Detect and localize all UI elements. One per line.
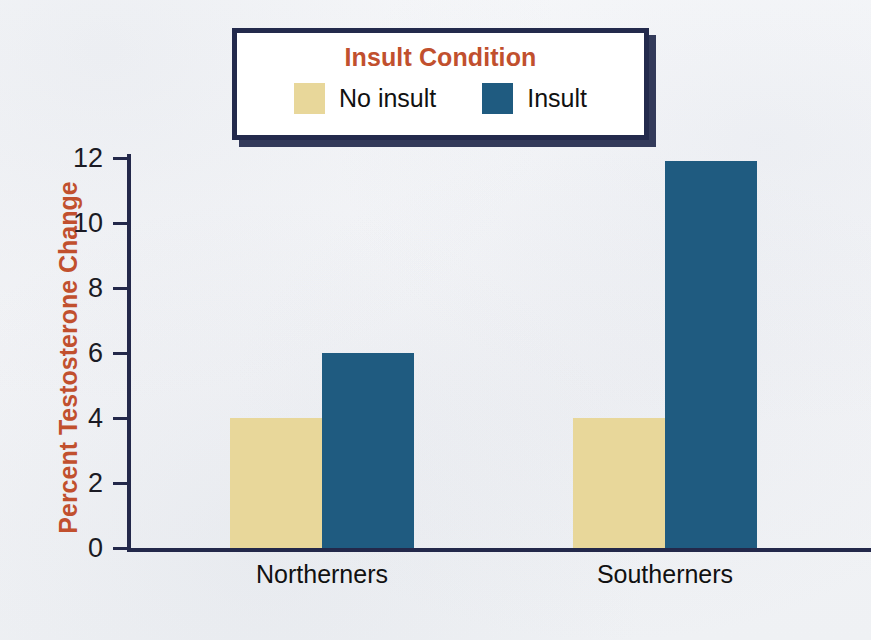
y-axis-tick-label: 6 (88, 340, 103, 367)
y-axis-tick-label: 10 (73, 210, 103, 237)
y-axis-line (127, 154, 131, 552)
legend-item-label: Insult (527, 86, 587, 111)
x-axis-label-southerners: Southerners (573, 562, 757, 587)
bar-southerners-no-insult (573, 418, 665, 548)
y-axis-tick-mark (113, 352, 127, 355)
legend-items: No insultInsult (237, 83, 644, 114)
x-axis-line (127, 548, 871, 552)
legend-item-label: No insult (339, 86, 436, 111)
y-axis-tick-label: 12 (73, 145, 103, 172)
y-axis-tick-mark (113, 417, 127, 420)
y-axis-tick-mark (113, 157, 127, 160)
chart-legend: Insult Condition No insultInsult (232, 28, 649, 140)
y-axis-tick-label: 2 (88, 470, 103, 497)
bar-southerners-insult (665, 161, 757, 548)
bar-northerners-no-insult (230, 418, 322, 548)
plot-area: 024681012 NorthernersSoutherners (127, 158, 871, 548)
legend-swatch-insult (482, 83, 513, 114)
y-axis-tick-mark (113, 287, 127, 290)
y-axis-tick-mark (113, 547, 127, 550)
x-axis-label-northerners: Northerners (230, 562, 414, 587)
legend-swatch-no-insult (294, 83, 325, 114)
bar-northerners-insult (322, 353, 414, 548)
legend-item: No insult (294, 83, 436, 114)
y-axis-tick-mark (113, 482, 127, 485)
legend-item: Insult (482, 83, 587, 114)
y-axis-tick-label: 8 (88, 275, 103, 302)
y-axis-tick-mark (113, 222, 127, 225)
y-axis-tick-label: 0 (88, 535, 103, 562)
y-axis-tick-label: 4 (88, 405, 103, 432)
legend-title: Insult Condition (237, 45, 644, 70)
bar-chart: Insult Condition No insultInsult Percent… (0, 0, 871, 640)
